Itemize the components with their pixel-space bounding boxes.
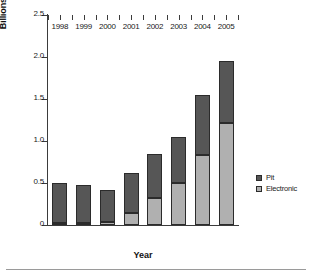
bar-segment-electronic <box>219 123 234 225</box>
y-tick-label: 1.5 <box>33 93 44 102</box>
x-tick-label: 2005 <box>211 22 241 31</box>
bar-segment-pit <box>171 137 186 183</box>
bar-segment-pit <box>100 190 115 222</box>
bar-segment-electronic <box>100 222 115 225</box>
bar-group <box>124 15 139 225</box>
legend-label: Pit <box>266 173 274 182</box>
bar-segment-pit <box>147 154 162 199</box>
bar-segment-electronic <box>171 183 186 225</box>
legend-item: Pit <box>256 172 297 183</box>
x-tick-mark <box>60 15 61 20</box>
x-tick-mark <box>179 15 180 20</box>
bar-segment-electronic <box>124 213 139 225</box>
bar-group <box>52 15 67 225</box>
chart-legend: PitElectronic <box>256 172 297 194</box>
y-tick-label: 1.0 <box>33 135 44 144</box>
x-tick-mark <box>202 15 203 20</box>
x-axis-title: Year <box>48 250 238 260</box>
y-tick-label: 2.5 <box>33 9 44 18</box>
y-tick-label: 0 <box>40 219 44 228</box>
x-tick-mark <box>191 15 192 20</box>
bar-group <box>219 15 234 225</box>
y-tick-label: 0.5 <box>33 177 44 186</box>
bar-segment-electronic <box>147 198 162 225</box>
x-tick-mark <box>107 15 108 20</box>
legend-swatch-icon <box>256 175 262 181</box>
x-axis-line <box>47 225 239 226</box>
bar-group <box>147 15 162 225</box>
chart-figure: Billions of contracts 00.51.01.52.02.5 1… <box>0 0 314 277</box>
bar-segment-pit <box>219 61 234 123</box>
x-tick-mark <box>72 15 73 20</box>
bar-segment-electronic <box>195 155 210 225</box>
x-tick-mark <box>238 15 239 20</box>
x-tick-mark <box>119 15 120 20</box>
legend-item: Electronic <box>256 183 297 194</box>
plot-area: 00.51.01.52.02.5 19981999200020012002200… <box>48 15 238 225</box>
y-tick-label: 2.0 <box>33 51 44 60</box>
y-axis-title: Billions of contracts <box>0 0 8 58</box>
x-tick-mark <box>48 15 49 20</box>
bar-segment-pit <box>124 173 139 213</box>
bar-group <box>100 15 115 225</box>
x-tick-mark <box>96 15 97 20</box>
x-tick-mark <box>143 15 144 20</box>
x-tick-mark <box>226 15 227 20</box>
x-tick-mark <box>167 15 168 20</box>
legend-swatch-icon <box>256 186 262 192</box>
bar-group <box>171 15 186 225</box>
bar-segment-pit <box>52 183 67 223</box>
bar-group <box>76 15 91 225</box>
legend-label: Electronic <box>266 184 297 193</box>
x-tick-mark <box>131 15 132 20</box>
bar-segment-pit <box>76 185 91 224</box>
x-tick-mark <box>84 15 85 20</box>
bar-segment-pit <box>195 95 210 155</box>
page-divider <box>6 269 306 270</box>
bar-group <box>195 15 210 225</box>
x-tick-mark <box>214 15 215 20</box>
x-tick-mark <box>155 15 156 20</box>
